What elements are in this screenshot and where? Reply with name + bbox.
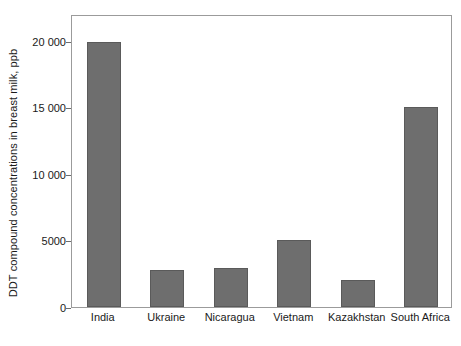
x-axis-tick-label: India — [91, 311, 115, 323]
bar — [341, 280, 375, 307]
y-axis-tick-label: 20 000 — [32, 36, 66, 48]
x-axis-tick-label: Vietnam — [273, 311, 313, 323]
x-axis-tick-label: Nicaragua — [205, 311, 255, 323]
bar-chart: DDT compound concentrations in breast mi… — [0, 0, 461, 346]
x-axis-tick-label: South Africa — [391, 311, 450, 323]
y-axis-tick-mark — [66, 308, 71, 309]
y-axis-title-text: DDT compound concentrations in breast mi… — [7, 49, 19, 297]
y-axis-tick-mark — [66, 108, 71, 109]
y-axis-tick-label: 10 000 — [32, 169, 66, 181]
y-axis-tick-label: 15 000 — [32, 102, 66, 114]
bar — [150, 270, 184, 307]
x-axis-tick-label: Kazakhstan — [328, 311, 385, 323]
y-axis-tick-labels: 0500010 00015 00020 000 — [26, 0, 66, 346]
y-axis-tick-mark — [66, 42, 71, 43]
y-axis-title: DDT compound concentrations in breast mi… — [0, 0, 26, 346]
bar — [87, 42, 121, 307]
bar — [277, 240, 311, 307]
bar — [404, 107, 438, 307]
bar — [214, 268, 248, 307]
y-axis-tick-mark — [66, 175, 71, 176]
y-axis-tick-label: 5000 — [42, 235, 66, 247]
x-axis-tick-labels: IndiaUkraineNicaraguaVietnamKazakhstanSo… — [71, 311, 452, 341]
plot-area — [71, 15, 452, 308]
x-axis-tick-label: Ukraine — [147, 311, 185, 323]
y-axis-tick-mark — [66, 241, 71, 242]
